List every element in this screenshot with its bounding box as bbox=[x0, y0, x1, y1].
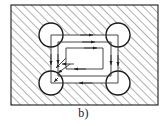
figure-panel-b: b) bbox=[0, 0, 167, 126]
figure-label-b: b) bbox=[0, 106, 167, 120]
